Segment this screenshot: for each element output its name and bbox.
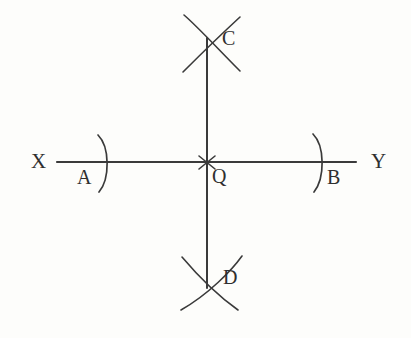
geometry-diagram: X Y A B C D Q	[0, 0, 411, 338]
label-d: D	[223, 267, 237, 287]
label-q: Q	[212, 166, 226, 186]
label-y: Y	[371, 151, 386, 172]
label-x: X	[31, 151, 46, 172]
label-a: A	[77, 167, 91, 187]
label-b: B	[327, 167, 340, 187]
label-c: C	[222, 28, 235, 48]
construction-drawing	[0, 0, 411, 338]
arc-a	[98, 135, 107, 192]
